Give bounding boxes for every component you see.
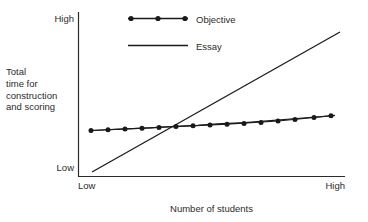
y-axis-title-line-1: Total [6, 66, 26, 77]
y-axis-tick-label-low: Low [34, 162, 74, 174]
series-objective [89, 113, 336, 133]
y-axis-title-line-3: construction [6, 90, 57, 101]
y-axis-title-line-4: and scoring [6, 101, 55, 112]
y-axis-title-line-2: time for [6, 78, 38, 89]
series-essay [92, 32, 340, 172]
series-essay-line [92, 32, 340, 172]
chart-figure: Objective Essay High Low Totaltime forco… [0, 0, 368, 222]
series-objective-path [91, 115, 335, 130]
x-axis-tick-label-high: High [305, 180, 345, 192]
x-axis-title: Number of students [78, 203, 345, 215]
series-objective-markers [89, 113, 334, 133]
legend-item-label-essay[interactable]: Essay [196, 41, 222, 53]
y-axis-title: Totaltime forconstructionand scoring [6, 66, 74, 113]
legend-objective-swatch[interactable] [128, 16, 188, 21]
legend-item-label-objective[interactable]: Objective [196, 14, 236, 26]
x-axis-tick-label-low: Low [78, 180, 95, 192]
y-axis-tick-label-high: High [34, 13, 74, 25]
